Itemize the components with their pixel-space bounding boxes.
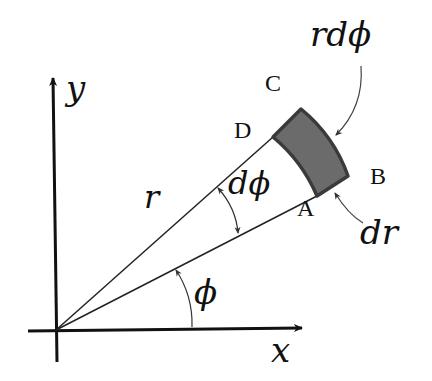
phi-label: ϕ (194, 272, 217, 312)
x-axis (28, 328, 302, 331)
dr-pointer-arrow (335, 193, 363, 223)
y-axis (53, 78, 57, 362)
polar-element-diagram (0, 0, 432, 381)
point-C-label: C (265, 70, 281, 97)
phi-arc-arrow (176, 270, 192, 327)
area-element (273, 109, 348, 196)
x-axis-label: x (271, 330, 290, 370)
y-axis-label: y (66, 68, 85, 108)
y-label-text: y (66, 68, 85, 108)
rdphi-pointer-arrow (336, 66, 361, 135)
dr-label: dr (360, 212, 398, 252)
point-A-label: A (297, 195, 314, 222)
r-label: r (144, 178, 159, 216)
rdphi-label: rdϕ (310, 14, 371, 54)
point-B-label: B (370, 163, 386, 190)
point-D-label: D (234, 117, 251, 144)
radial-line-lower (56, 196, 317, 330)
dphi-label: dϕ (228, 164, 270, 202)
x-label-text: x (271, 330, 290, 370)
